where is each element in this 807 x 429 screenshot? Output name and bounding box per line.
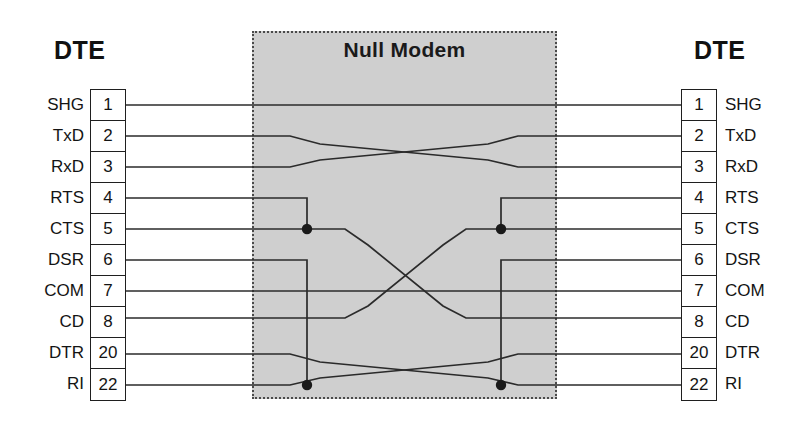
wire-pin4-rts-left-loopback bbox=[126, 198, 307, 229]
left-signal-label-dsr: DSR bbox=[22, 244, 84, 275]
left-pin-cell-6: 6 bbox=[91, 245, 125, 276]
left-signal-label-ri: RI bbox=[22, 368, 84, 399]
left-signal-label-txd: TxD bbox=[22, 120, 84, 151]
wire-pin5-cts-to-right-pin8 bbox=[126, 229, 501, 318]
wire-pin4-rts-right-loopback bbox=[501, 198, 681, 229]
right-pin-cell-4: 4 bbox=[682, 183, 716, 214]
wire-pin6-dsr-left-loopback bbox=[126, 260, 307, 385]
left-pin-cell-8: 8 bbox=[91, 307, 125, 338]
right-pin-cell-8: 8 bbox=[682, 307, 716, 338]
right-signal-label-rts: RTS bbox=[725, 182, 787, 213]
left-pin-cell-7: 7 bbox=[91, 276, 125, 307]
right-pin-cell-6: 6 bbox=[682, 245, 716, 276]
null-modem-diagram: Null Modem DTE DTE bbox=[0, 0, 807, 429]
right-signal-label-dsr: DSR bbox=[725, 244, 787, 275]
left-pin-cell-3: 3 bbox=[91, 152, 125, 183]
junction-dot-left-rts-cts bbox=[302, 224, 312, 234]
right-connector-pin-column: 1 2 3 4 5 6 7 8 20 22 bbox=[681, 89, 717, 401]
right-signal-label-ri: RI bbox=[725, 368, 787, 399]
right-pin-cell-20: 20 bbox=[682, 338, 716, 369]
right-signal-label-rxd: RxD bbox=[725, 151, 787, 182]
junction-dot-left-dsr-ri bbox=[302, 380, 312, 390]
right-pin-cell-1: 1 bbox=[682, 90, 716, 121]
right-pin-cell-7: 7 bbox=[682, 276, 716, 307]
right-signal-label-shg: SHG bbox=[725, 89, 787, 120]
left-signal-label-cd: CD bbox=[22, 306, 84, 337]
left-pin-cell-4: 4 bbox=[91, 183, 125, 214]
right-pin-cell-2: 2 bbox=[682, 121, 716, 152]
right-pin-cell-5: 5 bbox=[682, 214, 716, 245]
left-signal-label-rts: RTS bbox=[22, 182, 84, 213]
right-signal-label-com: COM bbox=[725, 275, 787, 306]
left-signal-label-shg: SHG bbox=[22, 89, 84, 120]
wire-pin3-rxd-to-pin2 bbox=[126, 136, 681, 167]
left-signal-label-cts: CTS bbox=[22, 213, 84, 244]
right-signal-label-txd: TxD bbox=[725, 120, 787, 151]
left-connector-pin-column: 1 2 3 4 5 6 7 8 20 22 bbox=[90, 89, 126, 401]
right-pin-cell-3: 3 bbox=[682, 152, 716, 183]
wire-pin8-cd-to-right-pin5 bbox=[126, 229, 501, 318]
left-signal-label-com: COM bbox=[22, 275, 84, 306]
left-pin-cell-20: 20 bbox=[91, 338, 125, 369]
wire-pin6-dsr-right-loopback bbox=[501, 260, 681, 385]
left-pin-cell-2: 2 bbox=[91, 121, 125, 152]
right-pin-cell-22: 22 bbox=[682, 369, 716, 400]
left-pin-cell-22: 22 bbox=[91, 369, 125, 400]
left-pin-cell-1: 1 bbox=[91, 90, 125, 121]
left-signal-label-dtr: DTR bbox=[22, 337, 84, 368]
junction-dot-right-dsr-ri bbox=[496, 380, 506, 390]
junction-dot-right-rts-cts bbox=[496, 224, 506, 234]
left-signal-label-rxd: RxD bbox=[22, 151, 84, 182]
left-pin-cell-5: 5 bbox=[91, 214, 125, 245]
wire-pin22-ri-to-pin20 bbox=[126, 354, 681, 385]
right-signal-label-dtr: DTR bbox=[725, 337, 787, 368]
right-signal-label-cts: CTS bbox=[725, 213, 787, 244]
right-signal-label-cd: CD bbox=[725, 306, 787, 337]
